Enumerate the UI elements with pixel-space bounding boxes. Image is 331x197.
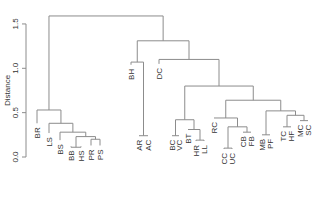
leaf-label: HS [77,150,86,161]
y-tick-label: 1.0 [11,62,20,74]
leaf-label: RC [210,122,219,134]
leaf-label: DC [155,68,164,80]
leaf-labels: BRLSBSBBHSPRPSBHARACDCBCVCBTHRLLRCCCUCCB… [33,68,313,165]
dendrogram-plot: 0.00.51.01.5Distance BRLSBSBBHSPRPSBHARA… [0,0,331,197]
leaf-label: PR [87,149,96,160]
y-tick-label: 0.5 [11,107,20,119]
y-tick-label: 1.5 [11,18,20,30]
leaf-label: UC [228,153,237,165]
leaf-label: FB [247,136,256,146]
leaf-label: BR [33,127,42,138]
leaf-label: BS [56,144,65,155]
leaf-label: LL [200,144,209,153]
leaf-label: LS [45,137,54,147]
y-axis-title: Distance [3,74,12,106]
leaf-label: BB [67,150,76,161]
leaf-label: SC [304,124,313,135]
leaf-label: VC [175,140,184,151]
leaf-label: BT [184,133,193,143]
dendrogram-branches [37,16,308,149]
y-axis: 0.00.51.01.5Distance [3,18,26,163]
y-tick-label: 0.0 [11,151,20,163]
leaf-label: PS [96,149,105,160]
dendrogram-chart: Distance 0.00.51.01.5Distance BRLSBSBBHS… [0,0,331,197]
leaf-label: BH [127,69,136,80]
leaf-label: PF [266,139,275,149]
leaf-label: HF [287,131,296,142]
leaf-label: AR [135,140,144,151]
leaf-label: AC [144,140,153,151]
